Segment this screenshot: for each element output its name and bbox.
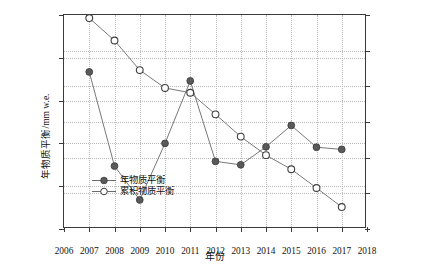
x-axis-tick-label: 2012	[206, 246, 225, 256]
y-axis-right-tick	[365, 229, 370, 230]
x-axis-tick-label: 2009	[130, 246, 149, 256]
x-axis-tick-label: 2017	[332, 246, 351, 256]
data-point	[187, 78, 194, 85]
data-point	[338, 146, 345, 153]
x-axis-tick-label: 2006	[55, 246, 74, 256]
data-point	[86, 69, 93, 76]
data-point	[338, 204, 345, 211]
data-point	[187, 89, 194, 96]
data-point	[136, 197, 143, 204]
x-axis-tick-label: 2018	[358, 246, 377, 256]
data-point	[288, 122, 295, 129]
x-axis-tick-label: 2008	[105, 246, 124, 256]
x-axis-tick-label: 2007	[80, 246, 99, 256]
chart-legend: 年物质平衡 累积物质平衡	[91, 175, 174, 197]
data-point	[162, 140, 169, 147]
legend-label: 年物质平衡	[117, 175, 165, 186]
data-point	[263, 152, 270, 159]
data-point	[313, 185, 320, 192]
legend-item: 年物质平衡	[91, 175, 174, 186]
data-point	[212, 111, 219, 118]
legend-marker-open-circle-icon	[91, 186, 117, 197]
y-axis-left-tick	[59, 229, 64, 230]
data-point	[237, 161, 244, 168]
data-point	[237, 133, 244, 140]
data-point	[212, 158, 219, 165]
x-axis-tick-label: 2016	[307, 246, 326, 256]
data-point	[111, 37, 118, 44]
data-point	[86, 15, 93, 22]
legend-item: 累积物质平衡	[91, 186, 174, 197]
x-axis-tick-label: 2014	[257, 246, 276, 256]
data-point	[313, 144, 320, 151]
legend-label: 累积物质平衡	[117, 186, 174, 197]
x-axis-tick-label: 2010	[156, 246, 175, 256]
legend-marker-filled-circle-icon	[91, 175, 117, 186]
plot-area: 2006200720082009201020112012201320142015…	[63, 14, 366, 228]
y-axis-left-title: 年物质平衡/mm w.e.	[38, 93, 52, 178]
data-point	[263, 143, 270, 150]
x-axis-tick-label: 2011	[181, 246, 199, 256]
x-axis-tick-label: 2015	[282, 246, 301, 256]
x-axis-tick-label: 2013	[231, 246, 250, 256]
data-point	[111, 163, 118, 170]
mass-balance-chart-figure: 年物质平衡/mm w.e. 累积物质平衡/mm w.e. 年份 20062007…	[0, 0, 429, 271]
data-point	[136, 67, 143, 74]
data-point	[162, 85, 169, 92]
data-point	[288, 166, 295, 173]
